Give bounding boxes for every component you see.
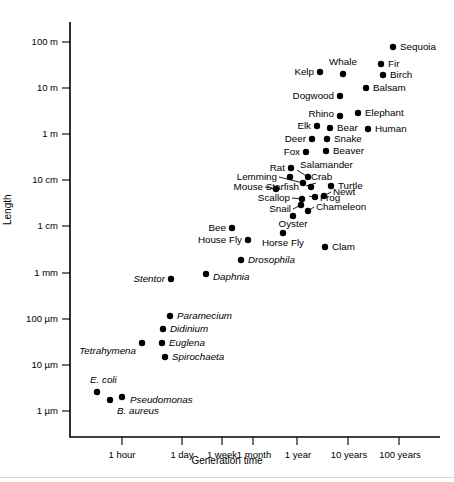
data-point [314,123,320,129]
data-point [324,136,330,142]
data-point [287,174,293,180]
point-label: Birch [390,70,412,80]
point-label: Crab [311,172,332,182]
y-tick-label: 100 µm [0,314,58,324]
point-label: E. coli [90,375,117,385]
data-point [337,113,343,119]
point-label: Whale [329,57,357,67]
point-label: Didinium [170,324,208,334]
point-label: Scallop [258,193,290,203]
data-point [365,126,371,132]
y-tick-label: 1 µm [0,406,58,416]
point-label: Snake [334,134,362,144]
point-label: Daphnia [213,272,250,282]
data-point [229,225,235,231]
data-point [203,271,209,277]
point-label: Elk [297,121,311,131]
point-label: Kelp [294,67,314,77]
point-label: Starfish [266,182,299,192]
point-label: Bee [209,223,226,233]
data-point [238,257,244,263]
data-point [390,44,396,50]
point-label: Stentor [133,274,165,284]
data-point [327,125,333,131]
point-label: Balsam [373,83,406,93]
x-axis-title: Generation time [0,455,454,466]
point-label: Chameleon [316,202,366,212]
point-label: Fox [284,147,300,157]
y-tick-label: 10 cm [0,175,58,185]
data-point [160,326,166,332]
data-point [317,69,323,75]
point-label: Fir [388,59,399,69]
point-label: Sequoia [400,42,436,52]
bottom-divider [0,477,454,478]
point-label: Tetrahymena [79,346,136,356]
point-label: Human [375,124,407,134]
data-point [380,72,386,78]
data-point [309,136,315,142]
y-tick-label: 1 m [0,129,58,139]
data-point [245,237,251,243]
y-tick-label: 100 m [0,37,58,47]
point-label: Deer [285,134,306,144]
point-label: Elephant [365,108,404,118]
point-label: Beaver [333,146,364,156]
data-point [107,397,113,403]
data-point [337,93,343,99]
point-label: Snail [269,204,291,214]
data-point [298,202,304,208]
data-point [168,276,174,282]
data-point [94,389,100,395]
data-point [355,110,361,116]
point-label: B. aureus [117,406,159,416]
point-label: Pseudomonas [130,395,193,405]
point-label: Oyster [279,219,308,229]
data-point [159,340,165,346]
point-label: Horse Fly [262,238,304,248]
point-label: Drosophila [248,255,295,265]
data-point [340,71,346,77]
point-label: Mouse [234,182,263,192]
point-label: House Fly [198,235,242,245]
data-point [363,85,369,91]
point-label: Bear [337,123,358,133]
data-points-layer [94,44,396,403]
point-label: Salamander [300,160,353,170]
y-tick-label: 10 m [0,83,58,93]
data-point [280,230,286,236]
data-point [162,354,168,360]
data-point [139,340,145,346]
data-point [378,61,384,67]
point-label: Dogwood [293,91,334,101]
point-label: Paramecium [177,311,232,321]
point-label: Clam [332,242,355,252]
point-label: Euglena [169,338,205,348]
data-point [167,313,173,319]
x-tick-marks [122,437,399,445]
y-tick-label: 10 µm [0,360,58,370]
data-point [288,165,294,171]
data-point [312,194,318,200]
y-tick-marks [62,42,70,411]
y-axis-title: Length [2,194,13,225]
data-point [299,196,305,202]
data-point [119,394,125,400]
point-label: Spirochaeta [172,352,224,362]
data-point [308,184,314,190]
data-point [305,208,311,214]
data-point [322,244,328,250]
data-point [303,149,309,155]
y-tick-label: 1 mm [0,268,58,278]
data-point [300,180,306,186]
data-point [323,148,329,154]
scatter-plot-figure: 100 m 10 m 1 m 10 cm 1 cm 1 mm 100 µm 10… [0,0,454,482]
point-label: Rhino [308,109,334,119]
